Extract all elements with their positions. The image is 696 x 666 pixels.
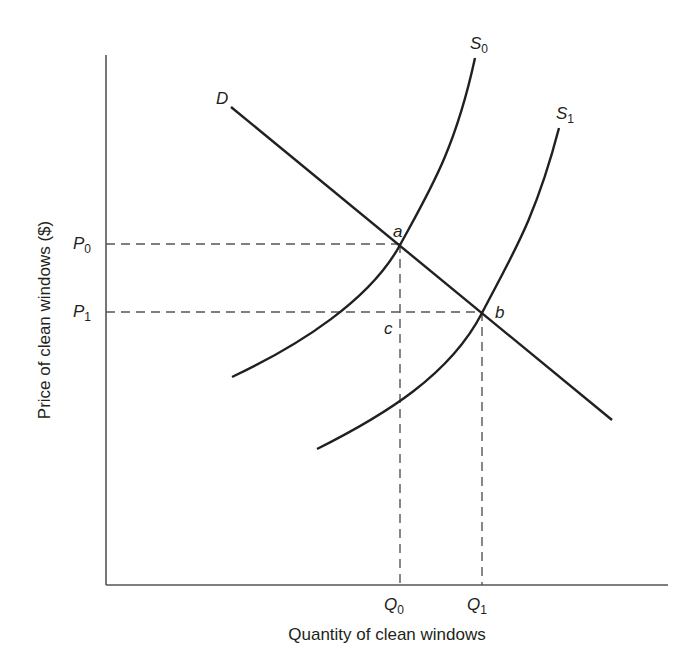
p0-label: P0 <box>73 234 91 256</box>
x-axis-title: Quantity of clean windows <box>288 625 486 644</box>
point-a-label: a <box>393 222 402 241</box>
supply-curve-s1 <box>317 128 559 449</box>
y-axis-title: Price of clean windows ($) <box>35 221 54 419</box>
s1-label: S1 <box>556 104 574 126</box>
q1-label: Q1 <box>467 595 487 617</box>
s0-label: S0 <box>470 34 488 56</box>
demand-label: D <box>216 89 228 108</box>
guide-lines <box>106 244 482 585</box>
demand-curve <box>231 107 612 420</box>
supply-curve-s0 <box>232 58 475 377</box>
p1-label: P1 <box>73 302 91 324</box>
point-c-label: c <box>384 319 393 338</box>
point-b-label: b <box>495 303 504 322</box>
supply-demand-diagram: D S0 S1 a b c P0 P1 Q0 Q1 Quantity of cl… <box>0 0 696 666</box>
q0-label: Q0 <box>384 595 404 617</box>
